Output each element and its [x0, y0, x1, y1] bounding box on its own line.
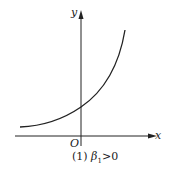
caption-condition: >0 [102, 150, 118, 163]
figure-caption: (1) β1>0 [72, 150, 118, 165]
y-axis-label: y [71, 6, 77, 19]
exponential-curve [20, 30, 125, 127]
origin-label: O [70, 137, 79, 150]
y-axis-arrow-icon [79, 10, 84, 19]
x-axis-label: x [155, 129, 161, 142]
caption-number: (1) [72, 150, 88, 163]
